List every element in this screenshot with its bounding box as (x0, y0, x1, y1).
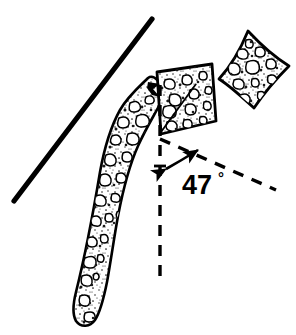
degree-symbol-text: ° (218, 169, 224, 186)
bone-angle-diagram-svg: 47 ° (0, 0, 296, 335)
angle-value-text: 47 (182, 170, 212, 200)
figure-root: 47 ° (0, 0, 296, 335)
